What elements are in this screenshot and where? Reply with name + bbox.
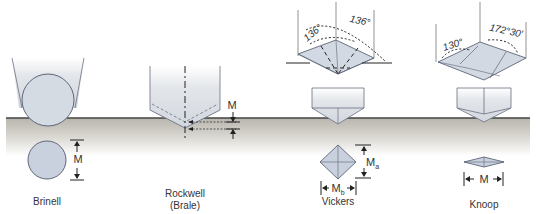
vickers-measure-b-main: M bbox=[331, 182, 340, 194]
brinell-indentation-icon bbox=[28, 141, 66, 179]
vickers-measure-a-sub: a bbox=[375, 163, 379, 170]
test-material bbox=[6, 118, 530, 156]
knoop-label: Knoop bbox=[459, 199, 509, 211]
brinell-measure-label: M bbox=[71, 153, 85, 165]
vickers-measure-a-main: M bbox=[366, 156, 375, 168]
diagram-canvas bbox=[0, 0, 536, 214]
rockwell-label-line2: (Brale) bbox=[155, 200, 215, 212]
vickers-measure-a: Ma bbox=[366, 156, 376, 173]
brinell-ball-icon bbox=[22, 74, 74, 126]
knoop-measure-label: M bbox=[477, 173, 491, 185]
hardness-test-diagram: M Brinell M Rockwell (Brale) 136° 136° M… bbox=[0, 0, 536, 214]
vickers-label: Vickers bbox=[313, 196, 363, 208]
rockwell-measure-label: M bbox=[225, 99, 239, 111]
brinell-label: Brinell bbox=[22, 196, 72, 208]
rockwell-label-line1: Rockwell bbox=[155, 188, 215, 200]
